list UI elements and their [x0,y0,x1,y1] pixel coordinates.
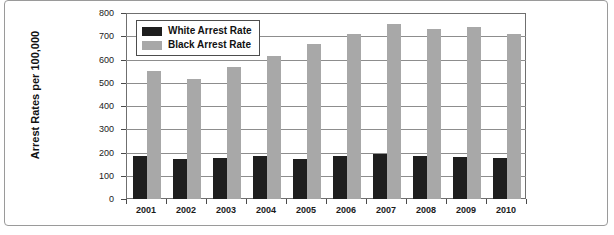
y-tick-mark [121,153,126,154]
x-tick-label-2008: 2008 [406,205,446,215]
legend-label-white: White Arrest Rate [168,26,252,36]
y-tick-label: 400 [80,102,114,111]
x-tick-mark [326,199,327,204]
bar-black-arrest-rate-2003 [227,67,241,199]
y-tick-label: 500 [80,79,114,88]
y-axis-title: Arrest Rates per 100,000 [29,15,41,175]
x-tick-mark [526,199,527,204]
x-tick-mark [286,199,287,204]
y-tick-label: 0 [80,195,114,204]
y-tick-mark [121,36,126,37]
bar-white-arrest-rate-2007 [373,154,387,199]
bar-black-arrest-rate-2006 [347,34,361,199]
x-tick-label-2009: 2009 [446,205,486,215]
y-tick-mark [121,83,126,84]
x-tick-mark [406,199,407,204]
y-tick-label: 700 [80,32,114,41]
bar-black-arrest-rate-2007 [387,24,401,199]
y-tick-label: 100 [80,172,114,181]
bar-black-arrest-rate-2008 [427,29,441,199]
y-tick-label: 800 [80,9,114,18]
x-tick-label-2007: 2007 [366,205,406,215]
x-tick-mark [126,199,127,204]
y-tick-label: 200 [80,149,114,158]
legend-swatch-icon-black [142,41,162,50]
chart-legend: White Arrest Rate Black Arrest Rate [136,20,260,56]
x-tick-label-2003: 2003 [206,205,246,215]
legend-swatch-icon-white [142,27,162,36]
y-tick-mark [121,176,126,177]
y-tick-label: 300 [80,125,114,134]
x-tick-mark [366,199,367,204]
x-tick-mark [206,199,207,204]
x-tick-label-2001: 2001 [126,205,166,215]
legend-item-black-arrest-rate: Black Arrest Rate [142,39,252,51]
bar-black-arrest-rate-2010 [507,34,521,199]
y-tick-mark [121,13,126,14]
bar-white-arrest-rate-2004 [253,156,267,199]
bar-black-arrest-rate-2002 [187,79,201,199]
x-tick-mark [446,199,447,204]
x-tick-label-2002: 2002 [166,205,206,215]
y-tick-mark [121,106,126,107]
x-tick-label-2010: 2010 [486,205,526,215]
bar-black-arrest-rate-2005 [307,44,321,199]
bar-white-arrest-rate-2008 [413,156,427,199]
legend-item-white-arrest-rate: White Arrest Rate [142,25,252,37]
bar-white-arrest-rate-2003 [213,158,227,199]
legend-label-black: Black Arrest Rate [168,40,251,50]
x-tick-label-2005: 2005 [286,205,326,215]
bar-white-arrest-rate-2010 [493,158,507,199]
x-tick-label-2006: 2006 [326,205,366,215]
chart-figure: Arrest Rates per 100,000 010020030040050… [4,0,608,226]
bar-white-arrest-rate-2001 [133,156,147,199]
x-tick-mark [246,199,247,204]
bar-chart: Arrest Rates per 100,000 010020030040050… [5,1,609,227]
bar-white-arrest-rate-2002 [173,159,187,199]
bar-black-arrest-rate-2001 [147,71,161,199]
x-tick-mark [166,199,167,204]
x-tick-mark [486,199,487,204]
bar-white-arrest-rate-2009 [453,157,467,199]
bar-black-arrest-rate-2009 [467,27,481,199]
y-tick-mark [121,129,126,130]
bar-white-arrest-rate-2006 [333,156,347,199]
y-tick-mark [121,60,126,61]
bar-white-arrest-rate-2005 [293,159,307,199]
bar-black-arrest-rate-2004 [267,56,281,199]
x-tick-label-2004: 2004 [246,205,286,215]
y-tick-label: 600 [80,56,114,65]
